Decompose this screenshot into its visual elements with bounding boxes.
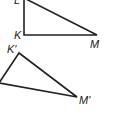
triangle-diagram: L K M K' M' <box>0 0 113 115</box>
label-m-prime: M' <box>79 94 91 106</box>
triangle-k-prime-l-prime-m-prime <box>0 53 77 97</box>
label-m: M <box>90 38 100 50</box>
label-k-prime: K' <box>7 43 17 55</box>
label-l: L <box>14 0 20 6</box>
label-k: K <box>14 29 22 41</box>
triangle-klm <box>24 0 97 35</box>
